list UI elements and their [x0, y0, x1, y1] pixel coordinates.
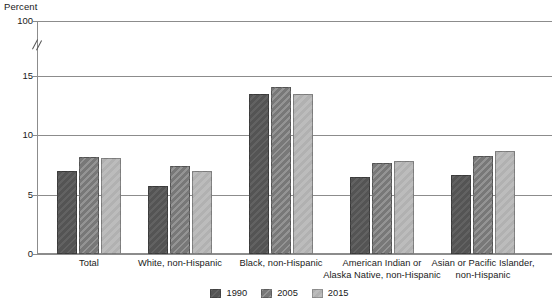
- y-tick-label: 5: [28, 190, 33, 200]
- bar: [372, 163, 392, 254]
- bar-chart: Percent 051015100 TotalWhite, non-Hispan…: [0, 0, 559, 307]
- bar: [394, 161, 414, 254]
- legend-item: 2005: [261, 288, 298, 298]
- bar: [57, 171, 77, 254]
- bar: [148, 186, 168, 254]
- legend-item: 1990: [210, 288, 247, 298]
- gridline-0: [37, 254, 552, 255]
- y-tick-label: 15: [22, 71, 33, 81]
- bar: [249, 94, 269, 254]
- bar: [451, 175, 471, 255]
- plot-area: 051015100: [37, 21, 552, 254]
- legend-label: 2015: [328, 288, 349, 298]
- bar: [350, 177, 370, 254]
- bar: [192, 171, 212, 254]
- bar: [170, 166, 190, 254]
- bar: [293, 94, 313, 254]
- bar: [495, 151, 515, 254]
- bar: [271, 87, 291, 254]
- legend-swatch-icon: [210, 289, 221, 298]
- legend-swatch-icon: [312, 289, 323, 298]
- chart-legend: 199020052015: [0, 288, 559, 298]
- y-axis-title: Percent: [4, 1, 37, 12]
- tick-mark: [33, 254, 37, 255]
- bar: [79, 157, 99, 254]
- legend-label: 2005: [277, 288, 298, 298]
- legend-label: 1990: [226, 288, 247, 298]
- legend-swatch-icon: [261, 289, 272, 298]
- bar: [101, 158, 121, 254]
- bar: [473, 156, 493, 254]
- category-label: Asian or Pacific Islander, non-Hispanic: [403, 258, 559, 281]
- bars-layer: [37, 21, 552, 254]
- y-tick-label: 10: [22, 130, 33, 140]
- legend-item: 2015: [312, 288, 349, 298]
- axis-break-icon: [31, 38, 45, 54]
- y-tick-label: 100: [17, 16, 33, 26]
